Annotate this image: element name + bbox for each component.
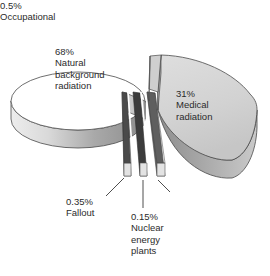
slice-label-occupational: 0.5% Occupational — [0, 0, 55, 23]
occupational-wedge-tip — [157, 163, 165, 176]
leader-lines — [106, 178, 170, 208]
slice-label-medical-radiation: 31% Medical radiation — [176, 88, 212, 122]
nuclear-wedge-tip — [140, 163, 147, 176]
pie-chart-figure: 68% Natural background radiation 31% Med… — [0, 0, 270, 276]
leader-line-fallout — [106, 178, 124, 196]
slice-label-fallout: 0.35% Fallout — [66, 196, 95, 219]
fallout-wedge-tip — [124, 163, 131, 176]
slice-label-natural-background-radiation: 68% Natural background radiation — [55, 46, 105, 92]
slice-label-nuclear-energy-plants: 0.15% Nuclear energy plants — [131, 211, 164, 257]
leader-line-occupational — [158, 180, 170, 192]
